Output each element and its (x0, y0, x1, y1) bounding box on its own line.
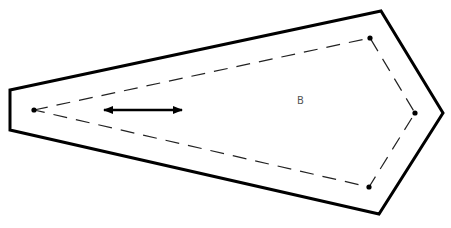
region-label-b: B (297, 96, 304, 106)
vertex-dot (367, 35, 372, 40)
outer-boundary-polygon (10, 11, 443, 214)
vertex-dot (31, 107, 36, 112)
vertex-dot (412, 110, 417, 115)
diagram-canvas (0, 0, 451, 228)
inner-dashed-path (34, 38, 415, 187)
vertex-dot (366, 184, 371, 189)
vertex-dots (31, 35, 417, 189)
